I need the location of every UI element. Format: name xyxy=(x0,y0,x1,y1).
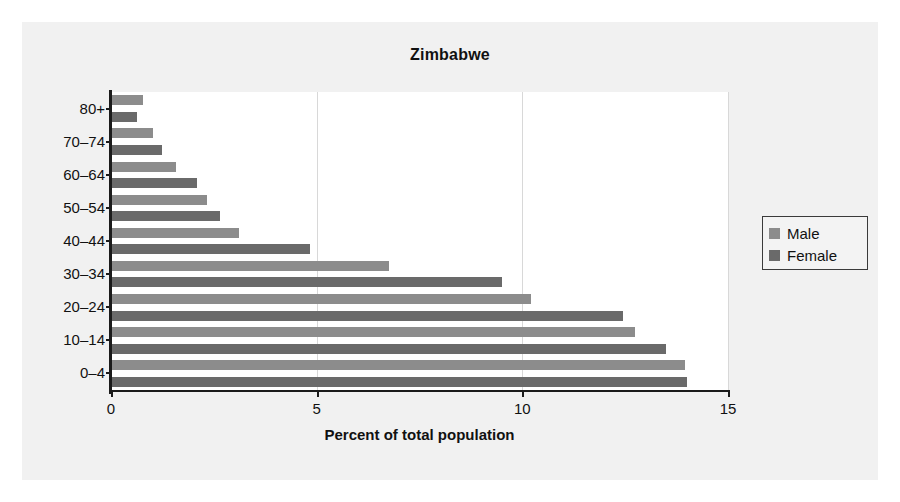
x-axis-line xyxy=(111,390,730,392)
x-tick-label: 10 xyxy=(497,400,547,417)
x-axis-title: Percent of total population xyxy=(111,426,728,443)
y-tick-mark xyxy=(106,207,112,209)
bar xyxy=(111,195,207,205)
x-tick-mark xyxy=(728,390,730,397)
y-tick-mark xyxy=(106,273,112,275)
y-tick-label: 50–54 xyxy=(63,199,105,216)
y-tick-label: 20–24 xyxy=(63,298,105,315)
y-tick-mark xyxy=(106,339,112,341)
legend-label-male: Male xyxy=(787,226,820,241)
bar xyxy=(111,261,389,271)
y-tick-mark xyxy=(106,306,112,308)
chart-figure: Zimbabwe 80+70–7460–6450–5440–4430–3420–… xyxy=(22,22,878,480)
x-tick-label: 5 xyxy=(292,400,342,417)
bar xyxy=(111,112,137,122)
y-axis-labels: 80+70–7460–6450–5440–4430–3420–2410–140–… xyxy=(22,92,105,390)
x-tick-mark xyxy=(522,390,524,397)
bar xyxy=(111,377,687,387)
bar xyxy=(111,145,162,155)
plot-area xyxy=(111,92,728,390)
legend-label-female: Female xyxy=(787,248,837,263)
y-tick-mark xyxy=(106,240,112,242)
y-tick-label: 70–74 xyxy=(63,133,105,150)
x-tick-mark xyxy=(317,390,319,397)
y-tick-mark xyxy=(106,372,112,374)
bar xyxy=(111,211,220,221)
bar xyxy=(111,360,685,370)
legend-swatch-female xyxy=(769,250,780,261)
legend-item-female: Female xyxy=(769,244,861,266)
bar xyxy=(111,277,502,287)
y-tick-label: 0–4 xyxy=(80,364,105,381)
bar xyxy=(111,344,666,354)
bar xyxy=(111,327,635,337)
x-tick-label: 0 xyxy=(86,400,136,417)
y-tick-label: 80+ xyxy=(80,100,105,117)
y-tick-label: 40–44 xyxy=(63,232,105,249)
bar xyxy=(111,178,197,188)
bar xyxy=(111,162,176,172)
legend-item-male: Male xyxy=(769,222,861,244)
y-tick-label: 30–34 xyxy=(63,265,105,282)
y-tick-label: 10–14 xyxy=(63,331,105,348)
chart-legend: Male Female xyxy=(762,216,868,270)
legend-swatch-male xyxy=(769,228,780,239)
y-tick-mark xyxy=(106,108,112,110)
bar xyxy=(111,228,239,238)
x-tick-mark xyxy=(111,390,113,397)
bar xyxy=(111,311,623,321)
bar xyxy=(111,294,531,304)
y-tick-mark xyxy=(106,141,112,143)
gridline-15 xyxy=(728,92,729,390)
y-tick-label: 60–64 xyxy=(63,166,105,183)
bar xyxy=(111,95,143,105)
y-tick-mark xyxy=(106,174,112,176)
bar-series-layer xyxy=(111,92,728,390)
bar xyxy=(111,244,310,254)
x-tick-label: 15 xyxy=(703,400,753,417)
chart-title: Zimbabwe xyxy=(22,46,878,64)
bar xyxy=(111,128,153,138)
